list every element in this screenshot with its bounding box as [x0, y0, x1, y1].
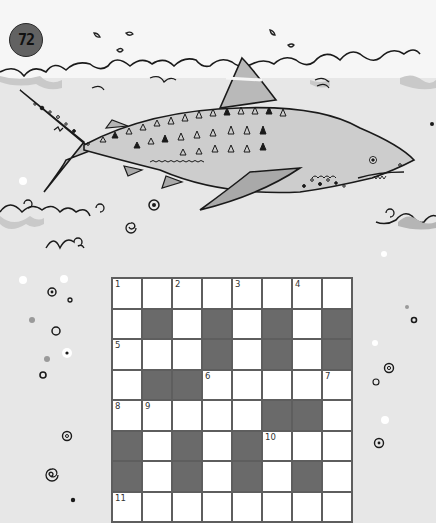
clue-number: 11	[115, 494, 126, 503]
crossword-cell[interactable]: 1	[113, 279, 141, 308]
crossword-cell[interactable]: 5	[113, 340, 141, 369]
crossword-cell[interactable]: 7	[323, 371, 351, 400]
crossword-cell[interactable]: 3	[233, 279, 261, 308]
crossword-block	[203, 340, 231, 369]
clue-number: 6	[205, 372, 210, 381]
crossword-cell[interactable]	[233, 340, 261, 369]
crossword-cell[interactable]	[203, 279, 231, 308]
crossword-block	[143, 310, 171, 339]
crossword-cell[interactable]	[263, 279, 291, 308]
crossword-cell[interactable]	[143, 462, 171, 491]
crossword-cell[interactable]	[113, 310, 141, 339]
crossword-cell[interactable]: 8	[113, 401, 141, 430]
clue-number: 8	[115, 402, 120, 411]
crossword-cell[interactable]: 2	[173, 279, 201, 308]
crossword-block	[293, 462, 321, 491]
crossword-cell[interactable]	[323, 279, 351, 308]
crossword-grid: 1234567891011	[111, 277, 353, 523]
crossword-cell[interactable]: 9	[143, 401, 171, 430]
crossword-block	[113, 432, 141, 461]
crossword-cell[interactable]	[323, 462, 351, 491]
crossword-cell[interactable]	[173, 340, 201, 369]
crossword-cell[interactable]	[173, 401, 201, 430]
crossword-block	[263, 401, 291, 430]
crossword-cell[interactable]	[143, 432, 171, 461]
crossword-cell[interactable]	[263, 493, 291, 522]
crossword-block	[203, 310, 231, 339]
crossword-cell[interactable]	[203, 493, 231, 522]
crossword-block	[233, 432, 261, 461]
crossword-cell[interactable]	[323, 401, 351, 430]
crossword-cell[interactable]	[323, 432, 351, 461]
crossword-cell[interactable]	[293, 493, 321, 522]
crossword-cell[interactable]	[233, 310, 261, 339]
clue-number: 3	[235, 280, 240, 289]
clue-number: 4	[295, 280, 300, 289]
crossword-block	[173, 432, 201, 461]
page-number-badge: 72	[9, 23, 43, 57]
clue-number: 1	[115, 280, 120, 289]
crossword-cell[interactable]	[293, 310, 321, 339]
crossword-cell[interactable]	[293, 340, 321, 369]
crossword-block	[173, 462, 201, 491]
crossword-cell[interactable]: 4	[293, 279, 321, 308]
clue-number: 5	[115, 341, 120, 350]
crossword-cell[interactable]	[173, 493, 201, 522]
crossword-block	[143, 371, 171, 400]
crossword-cell[interactable]	[203, 462, 231, 491]
page-number: 72	[18, 31, 34, 49]
crossword-cell[interactable]	[323, 493, 351, 522]
clue-number: 2	[175, 280, 180, 289]
crossword-cell[interactable]	[143, 279, 171, 308]
crossword-cell[interactable]	[263, 462, 291, 491]
crossword-cell[interactable]	[293, 371, 321, 400]
crossword-cell[interactable]	[113, 371, 141, 400]
crossword-block	[293, 401, 321, 430]
crossword-cell[interactable]	[233, 493, 261, 522]
crossword-cell[interactable]	[173, 310, 201, 339]
clue-number: 10	[265, 433, 276, 442]
crossword-cell[interactable]	[143, 340, 171, 369]
crossword-block	[263, 310, 291, 339]
crossword-block	[233, 462, 261, 491]
crossword-cell[interactable]	[233, 401, 261, 430]
crossword-cell[interactable]: 11	[113, 493, 141, 522]
crossword-block	[173, 371, 201, 400]
crossword-cell[interactable]	[143, 493, 171, 522]
clue-number: 9	[145, 402, 150, 411]
crossword-cell[interactable]	[203, 401, 231, 430]
crossword-cell[interactable]: 10	[263, 432, 291, 461]
clue-number: 7	[325, 372, 330, 381]
crossword-cell[interactable]	[293, 432, 321, 461]
crossword-cell[interactable]	[203, 432, 231, 461]
crossword-cell[interactable]: 6	[203, 371, 231, 400]
crossword-block	[113, 462, 141, 491]
crossword-block	[263, 340, 291, 369]
crossword-cell[interactable]	[263, 371, 291, 400]
crossword-block	[323, 340, 351, 369]
crossword-block	[323, 310, 351, 339]
crossword-cell[interactable]	[233, 371, 261, 400]
